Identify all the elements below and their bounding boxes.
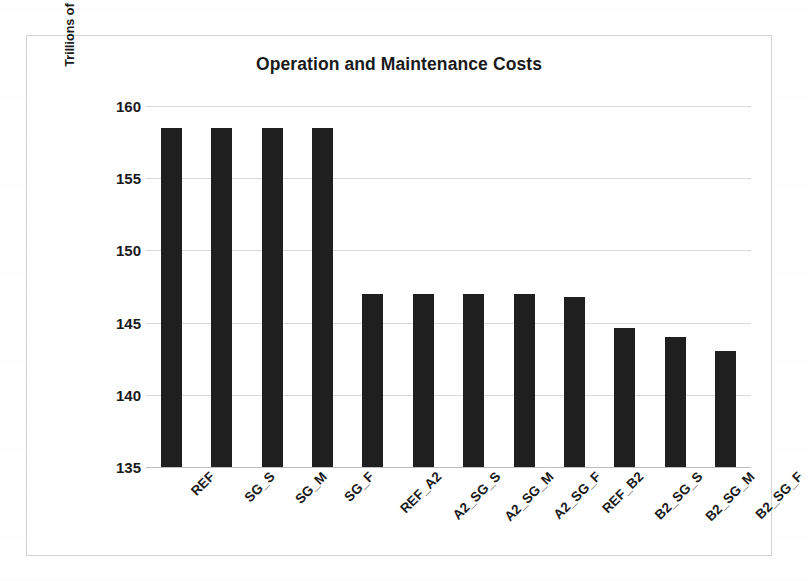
bar-B2_SG_M [665,337,686,467]
chart-title: Operation and Maintenance Costs [27,54,771,75]
bar-REF_B2 [564,297,585,467]
x-tick-label-REF: REF [188,469,218,499]
x-tick-label-A2_SG_S: A2_SG_S [450,469,504,523]
x-tick-label-REF_A2: REF_A2 [397,469,444,516]
y-axis-tick-labels: 135140145150155160 [83,106,141,467]
x-tick-label-A2_SG_M: A2_SG_M [501,469,556,524]
bar-A2_SG_F [514,294,535,467]
y-tick-label-150: 150 [89,242,141,259]
x-tick-label-SG_M: SG_M [292,469,330,507]
y-axis-title: Trillions of R$ [63,0,77,124]
y-tick-label-155: 155 [89,170,141,187]
x-tick-label-A2_SG_F: A2_SG_F [551,469,604,522]
y-tick-label-145: 145 [89,314,141,331]
bar-SG_F [312,128,333,467]
x-tick-label-B2_SG_M: B2_SG_M [703,469,758,524]
y-tick-label-160: 160 [89,98,141,115]
bar-REF_A2 [362,294,383,467]
x-tick-label-B2_SG_F: B2_SG_F [752,469,805,522]
bar-B2_SG_S [614,328,635,467]
gridline-140 [146,395,751,396]
x-tick-label-SG_S: SG_S [241,469,277,505]
bar-SG_S [211,128,232,467]
gridline-155 [146,178,751,179]
plot-area [146,106,751,467]
chart-frame: Operation and Maintenance Costs Trillion… [26,35,772,556]
bar-A2_SG_M [463,294,484,467]
bar-A2_SG_S [413,294,434,467]
gridline-150 [146,250,751,251]
y-tick-label-135: 135 [89,459,141,476]
gridline-135 [146,467,751,468]
x-tick-label-REF_B2: REF_B2 [599,469,646,516]
y-tick-label-140: 140 [89,386,141,403]
gridline-160 [146,106,751,107]
x-tick-label-B2_SG_S: B2_SG_S [652,469,706,523]
gridline-145 [146,323,751,324]
bar-REF [161,128,182,467]
x-tick-label-SG_F: SG_F [342,469,378,505]
bar-B2_SG_F [715,351,736,467]
x-axis-tick-labels: REFSG_SSG_MSG_FREF_A2A2_SG_SA2_SG_MA2_SG… [146,469,751,557]
bar-SG_M [262,128,283,467]
